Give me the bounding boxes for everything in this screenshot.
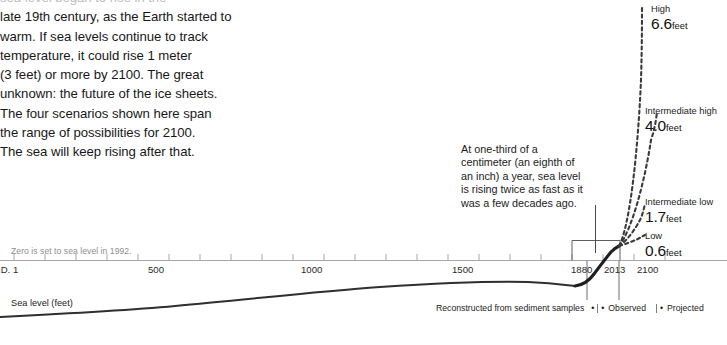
- scenario-name: Intermediate low: [645, 197, 713, 208]
- legend-divider: [656, 304, 657, 313]
- legend-dot-reconstructed: •: [591, 304, 594, 313]
- scenario-unit: feet: [672, 21, 688, 31]
- scenario-name: Low: [645, 231, 681, 242]
- x-tick-label-2100: 2100: [637, 264, 658, 275]
- scenario-label-high: High 6.6feet: [651, 4, 687, 35]
- rate-annotation: At one-third of a centimeter (an eighth …: [461, 143, 606, 210]
- scenario-value: 4.0feet: [645, 117, 717, 137]
- x-tick-label-1880: 1880: [571, 264, 592, 275]
- scenario-label-intermediate-low: Intermediate low 1.7feet: [645, 197, 713, 228]
- annotation-line: an inch) a year, sea level: [461, 170, 606, 183]
- x-tick-label-ad1: .D. 1: [0, 264, 18, 275]
- article-paragraph: sea level began to rise in the late 19th…: [0, 0, 250, 162]
- zero-baseline-note: Zero is set to sea level in 1992.: [11, 246, 132, 256]
- x-tick-label-1500: 1500: [452, 264, 473, 275]
- x-tick-label-500: 500: [148, 264, 164, 275]
- paragraph-line: The four scenarios shown here span: [0, 104, 250, 123]
- legend-dot-projected: •: [660, 304, 663, 313]
- annotation-line: centimeter (an eighth of: [461, 156, 606, 169]
- scenario-value: 6.6feet: [651, 15, 687, 35]
- paragraph-line: warm. If sea levels continue to track: [0, 27, 250, 46]
- annotation-leader-line: [595, 205, 596, 253]
- scenario-unit: feet: [666, 214, 682, 224]
- scenario-label-intermediate-high: Intermediate high 4.0feet: [645, 106, 717, 137]
- paragraph-line: (3 feet) or more by 2100. The great: [0, 65, 250, 84]
- x-tick-label-2013: 2013: [604, 264, 625, 275]
- paragraph-line: temperature, it could rise 1 meter: [0, 46, 250, 65]
- paragraph-line: late 19th century, as the Earth started …: [0, 7, 250, 26]
- paragraph-line: The sea will keep rising after that.: [0, 142, 250, 161]
- annotation-line: is rising twice as fast as it: [461, 183, 606, 196]
- chart-legend: Reconstructed from sediment samples • • …: [436, 303, 711, 313]
- scenario-unit: feet: [666, 123, 682, 133]
- paragraph-line: the range of possibilities for 2100.: [0, 123, 250, 142]
- scenario-value: 0.6feet: [645, 242, 681, 262]
- scenario-unit: feet: [666, 248, 682, 258]
- scenario-label-low: Low 0.6feet: [645, 231, 681, 262]
- scenario-value: 1.7feet: [645, 208, 713, 228]
- scenario-name: Intermediate high: [645, 106, 717, 117]
- infographic-sea-level-rise: sea level began to rise in the late 19th…: [0, 0, 727, 345]
- y-axis-label: Sea level (feet): [11, 298, 73, 308]
- legend-label-projected: Projected: [667, 303, 704, 313]
- paragraph-line: unknown: the future of the ice sheets.: [0, 84, 250, 103]
- scenario-name: High: [651, 4, 687, 15]
- paragraph-line: sea level began to rise in the: [0, 0, 250, 7]
- x-tick-label-1000: 1000: [301, 264, 322, 275]
- legend-divider: [597, 304, 598, 313]
- legend-dot-observed: •: [601, 304, 604, 313]
- projection-high: [619, 8, 642, 246]
- annotation-line: At one-third of a: [461, 143, 606, 156]
- legend-label-observed: Observed: [608, 303, 646, 313]
- annotation-line: was a few decades ago.: [461, 197, 606, 210]
- legend-label-reconstructed: Reconstructed from sediment samples: [436, 303, 584, 313]
